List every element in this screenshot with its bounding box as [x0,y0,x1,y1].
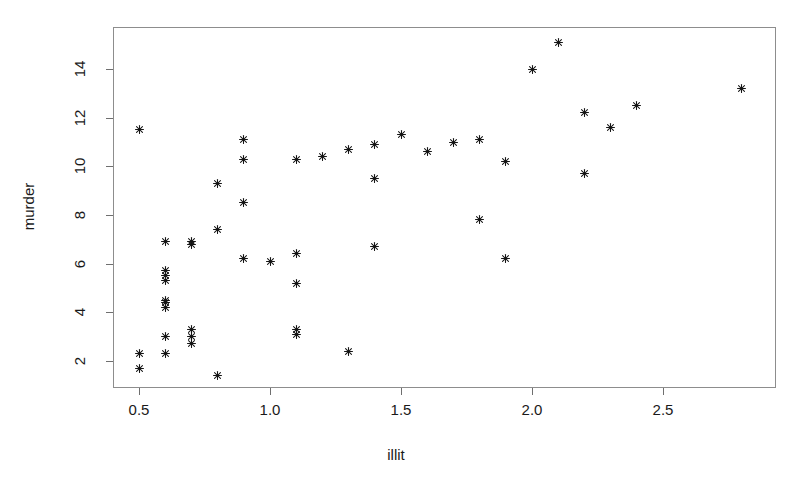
x-axis-tick-label: 1.0 [240,401,300,418]
scatter-plot-figure: 0.51.01.52.02.5 2468101214 illit murder [0,0,792,486]
x-axis-tick [663,388,664,395]
y-axis-tick-label: 14 [71,49,89,89]
x-axis-label: illit [0,446,792,463]
y-axis-tick-label: 4 [71,292,89,332]
y-axis-tick [106,118,113,119]
x-axis-tick [532,388,533,395]
y-axis-tick-label: 10 [71,146,89,186]
y-axis-label-container: murder [14,27,42,388]
y-axis-tick [106,361,113,362]
x-axis-tick-label: 2.5 [633,401,693,418]
y-axis-tick-label: 6 [71,244,89,284]
x-axis-tick-label: 1.5 [371,401,431,418]
plot-frame [113,27,776,388]
y-axis-label: murder [20,146,37,266]
y-axis-tick [106,166,113,167]
y-axis-tick [106,312,113,313]
y-axis-tick-label: 12 [71,98,89,138]
y-axis-tick [106,69,113,70]
x-axis-tick-label: 0.5 [109,401,169,418]
x-axis-tick [139,388,140,395]
y-axis-tick [106,215,113,216]
x-axis-tick [401,388,402,395]
y-axis-tick-label: 8 [71,195,89,235]
x-axis-tick [270,388,271,395]
x-axis-tick-label: 2.0 [502,401,562,418]
y-axis-tick [106,264,113,265]
y-axis-tick-label: 2 [71,341,89,381]
